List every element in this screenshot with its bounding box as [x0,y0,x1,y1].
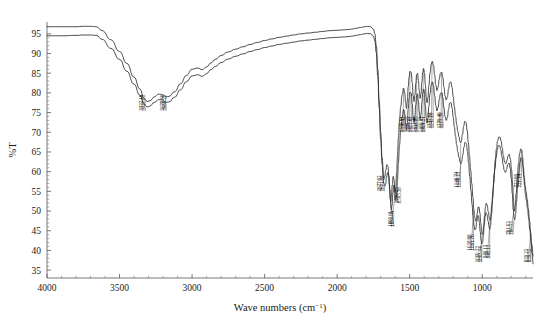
peak-label-948.13: 948.13 [485,244,491,258]
spectrum-plot: 3322.163321.833178.603180.211677.621671.… [0,0,547,322]
peak-label-1148.71: 1148.71 [455,171,461,187]
peak-label-1595.38: 1595.38 [396,187,402,203]
y-tick-label-40: 40 [32,246,42,256]
peak-label-1343.18: 1343.18 [428,112,434,128]
peak-label-3180.21: 3180.21 [161,94,167,110]
y-tick-label-55: 55 [32,187,42,197]
peak-label-3321.83: 3321.83 [140,94,146,110]
spectrum-upper [47,26,533,256]
x-tick-label-4000: 4000 [38,283,57,293]
x-tick-label-2000: 2000 [328,283,347,293]
trace-layer [47,26,533,264]
y-tick-label-75: 75 [32,108,42,118]
peak-label-1671.89: 1671.89 [379,175,385,191]
x-tick-label-2500: 2500 [255,283,274,293]
x-axis-title: Wave numbers (cm−1) [234,302,327,315]
peak-label-1277.59: 1277.59 [438,112,444,128]
x-tick-label-3500: 3500 [110,283,129,293]
y-tick-label-45: 45 [32,226,42,236]
peak-label-780.53: 780.53 [508,221,514,235]
y-tick-label-70: 70 [32,128,42,138]
y-tick-label-60: 60 [32,167,42,177]
x-tick-label-1500: 1500 [400,283,419,293]
y-tick-label-80: 80 [32,88,42,98]
peak-label-721.14: 721.14 [516,173,522,187]
peak-annotation-layer: 3322.163321.833178.603180.211677.621671.… [138,62,532,262]
peak-label-1630.94: 1630.94 [389,210,395,226]
axis-label-layer: 4000350030002500200015001000959085807570… [7,29,492,314]
axis-layer [47,22,533,278]
x-tick-label-1000: 1000 [473,283,492,293]
peak-label-639.52: 639.52 [526,248,532,262]
y-tick-label-90: 90 [32,49,42,59]
ftir-spectrum-figure: 3322.163321.833178.603180.211677.621671.… [0,0,547,322]
y-axis-title: %T [7,142,18,158]
spectrum-lower [47,33,533,264]
y-tick-label-50: 50 [32,206,42,216]
y-tick-label-85: 85 [32,69,42,79]
y-tick-label-65: 65 [32,147,42,157]
y-tick-label-95: 95 [32,29,42,39]
y-tick-label-35: 35 [32,266,42,276]
peak-label-1404.21: 1404.21 [420,116,426,132]
x-tick-label-3000: 3000 [183,283,202,293]
